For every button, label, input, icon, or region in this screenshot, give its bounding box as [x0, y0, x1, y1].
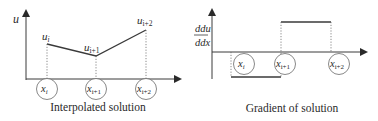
node-x-i2: xi+2	[329, 54, 350, 75]
caption-interpolated-solution: Interpolated solution	[50, 101, 146, 114]
caption-gradient-of-solution: Gradient of solution	[246, 102, 339, 114]
interpolated-solution-panel: u ui ui+1 ui+2 xi xi+1 xi+2 Interpolated…	[13, 11, 180, 114]
node-x-i: xi	[37, 79, 58, 100]
node-x-i1: xi+1	[86, 79, 107, 100]
gradient-of-solution-panel: ddu ddx xi xi+1 xi+2 Gradient of solutio…	[194, 10, 366, 114]
node-x-i2: xi+2	[136, 79, 157, 100]
svg-text:ddx: ddx	[195, 37, 211, 48]
diagram-canvas: u ui ui+1 ui+2 xi xi+1 xi+2 Interpolated…	[0, 0, 378, 121]
value-label-u-i: ui	[42, 30, 50, 44]
node-x-i: xi	[234, 54, 255, 75]
svg-text:ddu: ddu	[195, 23, 211, 34]
node-x-i1: xi+1	[275, 54, 296, 75]
value-label-u-i1: ui+1	[84, 41, 100, 55]
y-axis-label: u	[13, 12, 19, 26]
y-axis-label-du-dx: ddu ddx	[194, 23, 211, 48]
value-label-u-i2: ui+2	[137, 14, 153, 28]
